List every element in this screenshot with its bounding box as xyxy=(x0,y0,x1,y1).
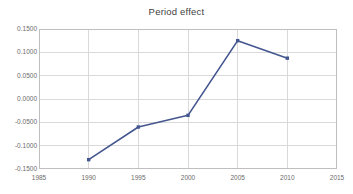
x-axis-tick-label: 2000 xyxy=(168,174,208,181)
x-axis-tick-label: 2010 xyxy=(267,174,307,181)
line-chart: Period effect 0.15000.10000.05000.0000-0… xyxy=(0,0,353,194)
x-axis-tick-label: 1985 xyxy=(19,174,59,181)
x-axis-tick-label: 2005 xyxy=(218,174,258,181)
x-axis-tick-label: 1995 xyxy=(118,174,158,181)
x-axis-tick-label: 2015 xyxy=(317,174,353,181)
x-axis-tick-label: 1990 xyxy=(69,174,109,181)
x-axis: 1985199019952000200520102015 xyxy=(0,0,353,194)
